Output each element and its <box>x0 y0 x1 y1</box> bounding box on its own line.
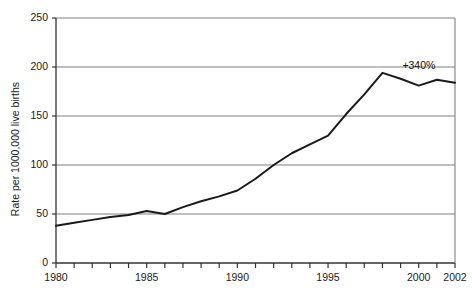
plot-canvas <box>0 0 472 298</box>
y-tick-label: 100 <box>18 158 48 170</box>
y-tick-label: 150 <box>18 109 48 121</box>
x-tick-label: 2000 <box>399 271 439 283</box>
y-tick-label: 200 <box>18 60 48 72</box>
x-tick-label: 1995 <box>308 271 348 283</box>
x-tick-label: 2002 <box>435 271 472 283</box>
x-tick-label: 1980 <box>36 271 76 283</box>
x-tick-label: 1985 <box>127 271 167 283</box>
y-tick-label: 0 <box>18 256 48 268</box>
x-tick-label: 1990 <box>217 271 257 283</box>
y-tick-label: 250 <box>18 11 48 23</box>
percent-change-annotation: +340% <box>402 59 435 71</box>
y-tick-label: 50 <box>18 207 48 219</box>
plot-background <box>56 18 455 263</box>
line-chart: Rate per 1000,000 live births 0501001502… <box>0 0 472 298</box>
